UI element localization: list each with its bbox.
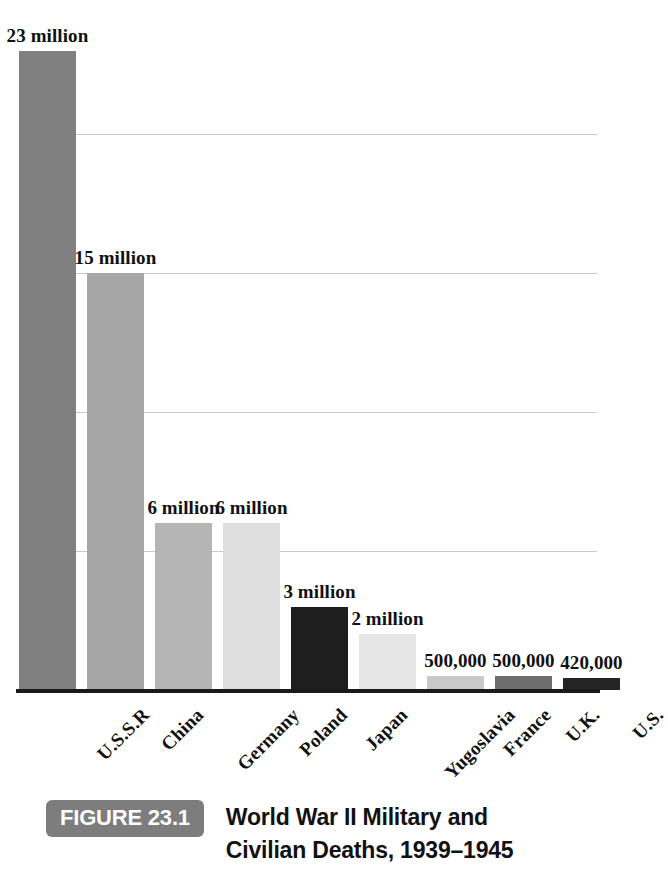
category-label: U.K. xyxy=(561,704,604,747)
category-label: Germany xyxy=(233,704,304,775)
category-label: U.S. xyxy=(628,704,668,744)
bar-value-label: 6 million xyxy=(215,497,287,519)
category-label: Japan xyxy=(361,704,412,755)
bar-yugoslavia xyxy=(359,634,416,690)
x-axis-baseline xyxy=(16,689,600,693)
bar-u-k xyxy=(495,676,552,690)
figure-title-line-2: Civilian Deaths, 1939–1945 xyxy=(226,834,514,867)
bar-value-label: 23 million xyxy=(7,25,89,47)
figure-number-badge: FIGURE 23.1 xyxy=(46,800,204,837)
bar-japan xyxy=(291,607,348,690)
bar-value-label: 500,000 xyxy=(424,650,486,672)
chart-plot-area: 23 million15 million6 million6 million3 … xyxy=(0,0,617,695)
figure-title: World War II Military and Civilian Death… xyxy=(226,800,514,866)
gridline xyxy=(19,134,597,135)
bar-value-label: 420,000 xyxy=(560,652,622,674)
category-label: U.S.S.R xyxy=(93,704,154,765)
bar-u-s-s-r xyxy=(19,51,76,690)
figure-caption: FIGURE 23.1 World War II Military and Ci… xyxy=(46,800,591,866)
bar-poland xyxy=(223,523,280,690)
bar-france xyxy=(427,676,484,690)
bar-value-label: 500,000 xyxy=(492,650,554,672)
bar-value-label: 15 million xyxy=(75,247,157,269)
bar-china xyxy=(87,273,144,690)
category-label: Poland xyxy=(295,704,352,761)
bar-germany xyxy=(155,523,212,690)
figure-title-line-1: World War II Military and xyxy=(226,801,514,834)
bar-value-label: 3 million xyxy=(283,581,355,603)
category-label: China xyxy=(157,704,208,755)
bar-value-label: 6 million xyxy=(147,497,219,519)
bar-value-label: 2 million xyxy=(351,608,423,630)
